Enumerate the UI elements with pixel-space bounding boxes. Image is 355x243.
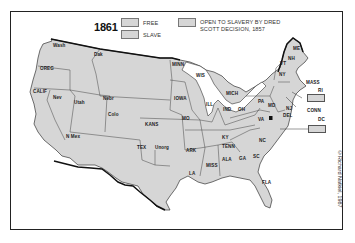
label-dak: Dak — [94, 52, 103, 57]
label-colo: Colo — [108, 112, 119, 117]
label-mo: MO — [182, 116, 190, 121]
label-iowa: IOWA — [174, 96, 187, 101]
label-kans: KANS — [145, 122, 158, 127]
label-sc: SC — [253, 154, 260, 159]
label-md: MD — [268, 103, 275, 108]
label-ill: ILL — [206, 102, 213, 107]
label-tex: TEX — [137, 145, 146, 150]
legend-year: 1861 — [94, 21, 118, 33]
label-ri: RI — [318, 88, 323, 93]
us-map-1861 — [0, 0, 355, 243]
label-tenn: TENN — [222, 144, 235, 149]
label-ny: NY — [279, 72, 286, 77]
legend-swatch-free — [121, 18, 139, 27]
label-calif: CALIF — [33, 89, 47, 94]
legend-label-dred-scott-2: SCOTT DECISION, 1857 — [200, 26, 265, 33]
credit-text: ©Richard Natkiel, 1987 — [337, 150, 343, 208]
label-conn: CONN — [307, 108, 321, 113]
legend-label-dred-scott-1: OPEN TO SLAVERY BY DRED — [200, 19, 280, 26]
label-va: VA — [258, 117, 264, 122]
label-miss: MISS — [206, 163, 218, 168]
label-oreg: OREG — [40, 66, 54, 71]
callout-box-dc — [308, 125, 326, 133]
dc-marker — [269, 116, 273, 120]
label-ark: ARK — [186, 148, 196, 153]
label-ala: ALA — [222, 157, 232, 162]
label-ga: GA — [239, 156, 246, 161]
legend-label-slave: SLAVE — [143, 32, 161, 39]
label-unorg: Unorg — [155, 145, 169, 150]
callout-box-ri — [307, 94, 325, 102]
label-fla: FLA — [262, 180, 271, 185]
label-vt: VT — [280, 61, 286, 66]
label-nh: NH — [288, 56, 295, 61]
label-oh: OH — [238, 107, 245, 112]
legend-swatch-dred-scott — [178, 18, 196, 27]
label-utah: Utah — [74, 100, 85, 105]
legend-swatch-slave — [121, 30, 139, 39]
label-ky: KY — [222, 135, 229, 140]
label-nebr: Nebr — [103, 96, 114, 101]
label-mass: MASS — [306, 80, 320, 85]
label-nj: NJ — [286, 106, 292, 111]
label-mich: MICH — [226, 91, 238, 96]
label-del: DEL — [283, 113, 293, 118]
label-minn: MINN — [172, 62, 184, 67]
label-nc: NC — [259, 138, 266, 143]
legend-label-free: FREE — [143, 20, 158, 27]
label-me: ME — [293, 46, 300, 51]
label-ind: IND — [223, 107, 231, 112]
label-pa: PA — [258, 99, 264, 104]
label-nmex: N Mex — [66, 134, 80, 139]
label-la: LA — [189, 171, 195, 176]
label-nev: Nev — [53, 95, 62, 100]
label-dc: DC — [318, 117, 325, 122]
label-wis: WIS — [196, 73, 205, 78]
label-wash: Wash — [53, 43, 65, 48]
